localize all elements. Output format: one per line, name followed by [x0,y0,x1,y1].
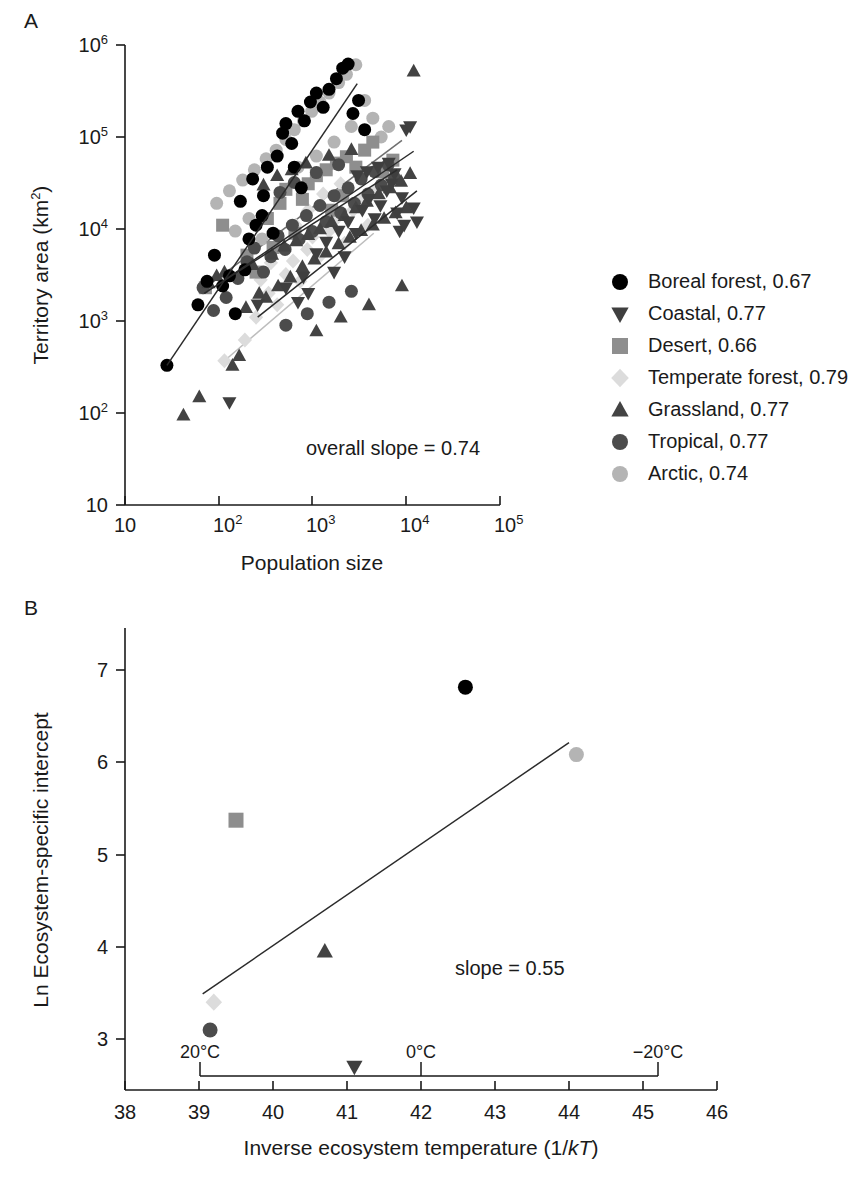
legend-marker-coastal [611,307,628,323]
legend-label-arctic: Arctic, 0.74 [648,462,748,484]
panel-b-slope-annotation: slope = 0.55 [455,957,565,979]
data-point-arctic [229,225,242,238]
data-point-boreal-forest [285,137,298,150]
panel-a-y-axis-title: Territory area (km2) [28,186,52,365]
panel-a-y-ticks [116,45,125,505]
data-point-coastal [327,267,341,280]
panel-b-point-arctic [569,747,584,762]
data-point-boreal-forest [191,298,204,311]
panel-b-axes [116,628,717,1090]
temperature-scale-labels: 20°C 0°C −20°C [180,1042,683,1062]
data-point-grassland [395,279,409,292]
panel-a-xtick-2: 103 [306,512,335,536]
panel-a-ytick-3: 104 [79,216,108,240]
data-point-tropical [301,307,314,320]
data-point-boreal-forest [271,150,284,163]
panel-b-xtick-44: 44 [558,1101,580,1123]
legend-marker-tropical [612,434,628,450]
data-point-arctic [223,184,236,197]
data-point-coastal [410,216,424,229]
panel-a-scatter-layer [160,58,424,421]
data-point-grassland [407,64,421,77]
figure-canvas: A [0,0,862,1203]
data-point-grassland [322,148,336,161]
panel-a-xtick-3: 104 [400,512,429,536]
panel-b-point-temperate-forest [206,994,223,1011]
data-point-grassland [176,408,190,421]
panel-b-y-ticks [116,670,125,1039]
panel-b-xtick-38: 38 [114,1101,136,1123]
panel-b-point-coastal [346,1061,362,1076]
figure-root: A [0,0,862,1203]
data-point-grassland [403,166,417,179]
panel-b-xtick-45: 45 [632,1101,654,1123]
panel-b-xtick-46: 46 [706,1101,728,1123]
data-point-temperate-forest [238,333,252,348]
panel-b: B [24,596,728,1159]
panel-b-x-axis-title: Inverse ecosystem temperature (1/kT) [244,1136,599,1159]
temp-label-20c: 20°C [180,1042,220,1062]
panel-b-ytick-5: 5 [97,844,108,866]
data-point-tropical [220,291,233,304]
legend-marker-arctic [612,466,628,482]
data-point-arctic [366,112,379,125]
temperature-scale-bracket [200,1062,658,1076]
panel-b-xtick-42: 42 [410,1101,432,1123]
data-point-temperate-forest [286,253,300,268]
legend-marker-desert [612,338,628,354]
legend-marker-temperate-forest [611,369,629,387]
panel-a-ytick-1: 102 [79,400,108,424]
panel-a-xtick-1: 102 [213,512,242,536]
data-point-grassland [362,298,376,311]
data-point-tropical [257,266,270,279]
data-point-tropical [286,219,299,232]
data-point-tropical [300,209,313,222]
data-point-grassland [334,310,348,323]
data-point-boreal-forest [358,123,371,136]
panel-a-x-ticks [125,496,500,505]
data-point-coastal [319,237,333,250]
panel-a-ytick-0: 10 [86,494,108,516]
data-point-boreal-forest [257,189,270,202]
panel-b-point-boreal-forest [458,680,473,695]
data-point-grassland [232,348,246,361]
panel-a: A [24,9,523,574]
data-point-arctic [382,120,395,133]
temp-label-minus20c: −20°C [633,1042,684,1062]
panel-b-ytick-6: 6 [97,751,108,773]
legend: Boreal forest, 0.67 Coastal, 0.77 Desert… [611,270,848,484]
panel-b-point-desert [229,813,244,828]
temp-label-0c: 0°C [406,1042,436,1062]
data-point-grassland [309,324,323,337]
panel-b-letter: B [24,596,38,619]
data-point-boreal-forest [346,107,359,120]
data-point-coastal [291,297,305,310]
panel-b-y-axis-title: Ln Ecosystem-specific intercept [29,712,52,1007]
legend-marker-grassland [611,401,628,417]
data-point-boreal-forest [201,275,214,288]
data-point-arctic [328,136,341,149]
data-point-boreal-forest [246,172,259,185]
data-point-boreal-forest [352,94,365,107]
panel-b-xtick-41: 41 [336,1101,358,1123]
data-point-boreal-forest [234,195,247,208]
data-point-boreal-forest [267,227,280,240]
data-point-boreal-forest [279,117,292,130]
panel-a-y-tick-labels: 10 102 103 104 105 106 [79,32,108,516]
data-point-boreal-forest [342,58,355,71]
legend-marker-layer [611,274,629,482]
legend-label-desert: Desert, 0.66 [648,334,757,356]
panel-a-slope-annotation: overall slope = 0.74 [306,437,480,459]
panel-b-x-ticks [125,1081,717,1090]
legend-label-coastal: Coastal, 0.77 [648,302,766,324]
data-point-boreal-forest [317,101,330,114]
data-point-desert [216,219,229,232]
legend-marker-boreal-forest [612,274,628,290]
data-point-grassland [192,390,206,403]
data-point-boreal-forest [261,161,274,174]
data-point-tropical [328,189,341,202]
panel-a-ytick-2: 103 [79,308,108,332]
data-point-tropical [313,199,326,212]
data-point-coastal [222,397,236,410]
data-point-desert [366,136,379,149]
